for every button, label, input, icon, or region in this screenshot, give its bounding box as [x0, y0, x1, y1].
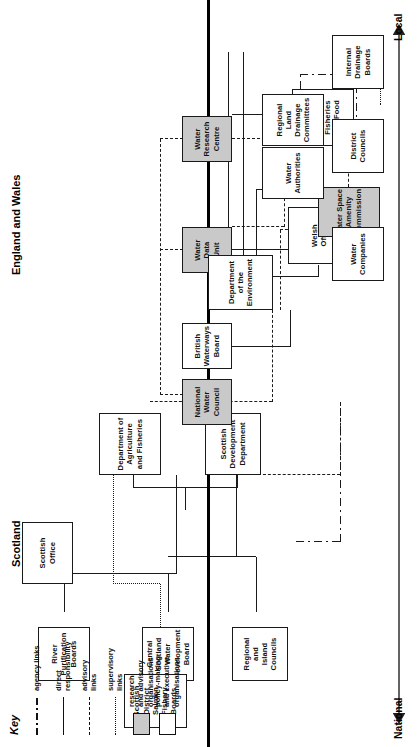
box-british-waterways-board[interactable]: BritishWaterwaysBoard — [182, 323, 232, 369]
legend-entry-advisory-links: advisorylinks — [79, 585, 99, 735]
connector-solid — [64, 573, 176, 574]
legend-title: Key — [8, 585, 20, 735]
connector-advisory — [280, 230, 281, 310]
legend-entry-label: agency links — [32, 645, 41, 691]
connector-solid — [232, 249, 296, 250]
connector-solid — [176, 475, 177, 574]
connector-solid — [318, 265, 319, 277]
box-department-of-the-environment[interactable]: Departmentof theEnvironment — [208, 255, 273, 310]
box-water-companies[interactable]: WaterCompanies — [332, 227, 384, 281]
connector-solid — [133, 487, 237, 488]
box-national-water-council[interactable]: NationalWaterCouncil — [182, 379, 232, 425]
legend-swatch-research: researchand advisoryorganisations — [131, 585, 151, 735]
legend-entry-label: directresponsibility — [54, 642, 72, 691]
connector-advisory — [258, 474, 340, 475]
legend-entry-label: supervisorylinks — [106, 648, 124, 691]
connector-solid — [236, 475, 237, 557]
box-regional-and-island-councils[interactable]: RegionalandIslandCouncils — [232, 627, 288, 681]
legend-swatch-label: policy-makingand executiveorganisations — [153, 656, 180, 707]
research-swatch-icon — [133, 713, 150, 735]
box-water-authorities[interactable]: WaterAuthorities — [262, 147, 324, 199]
direct-responsibility-line-icon — [63, 697, 64, 735]
legend-entry-supervisory-links: supervisorylinks — [105, 585, 125, 735]
executive-swatch-icon — [159, 713, 176, 735]
organisation-chart-canvas: Key agency links directresponsibility ad… — [0, 0, 420, 747]
connector-solid — [232, 346, 290, 347]
axis-label-national: National — [392, 698, 404, 739]
legend-entry-direct-responsibility: directresponsibility — [53, 585, 73, 735]
diagram-rotator: Key agency links directresponsibility ad… — [0, 0, 420, 747]
connector-supervisory — [113, 475, 114, 584]
legend-swatch-executive: policy-makingand executiveorganisations — [157, 585, 177, 735]
connector-solid — [133, 475, 134, 488]
section-label-scotland: Scotland — [10, 521, 22, 567]
legend-entry-label: advisorylinks — [80, 660, 98, 691]
box-scottish-office[interactable]: ScottishOffice — [22, 522, 73, 584]
connector-advisory — [232, 226, 284, 227]
legend-swatch-label: researchand advisoryorganisations — [127, 657, 154, 707]
box-water-research-centre[interactable]: WaterResearchCentre — [182, 116, 232, 162]
connector-solid — [185, 488, 186, 510]
supervisory-links-line-icon — [115, 697, 116, 735]
connector-solid — [290, 310, 291, 347]
advisory-links-line-icon — [89, 697, 90, 735]
connector-solid — [256, 557, 257, 612]
connector-advisory — [272, 310, 273, 402]
connector-advisory — [160, 139, 161, 395]
box-internal-drainage-boards[interactable]: InternalDrainageBoards — [332, 35, 384, 89]
main-spine-line — [207, 0, 210, 747]
box-department-of-agriculture-and-fisheries[interactable]: Department ofAgricultureand Fisheries — [99, 413, 161, 475]
connector-supervisory — [113, 583, 160, 584]
legend-entry-agency-links: agency links — [27, 585, 47, 735]
connector-solid — [168, 556, 256, 557]
legend: Key agency links directresponsibility ad… — [8, 585, 183, 735]
axis-label-local: Local — [392, 14, 404, 41]
connector-solid — [237, 475, 238, 488]
box-regional-land-drainage-committees[interactable]: RegionalLandDrainageCommittees — [262, 94, 324, 146]
section-label-england-and-wales: England and Wales — [10, 175, 22, 275]
connector-agency — [296, 541, 340, 542]
connector-agency — [340, 402, 341, 542]
national-local-axis-arrow — [388, 0, 412, 747]
box-district-councils[interactable]: DistrictCouncils — [332, 119, 384, 173]
